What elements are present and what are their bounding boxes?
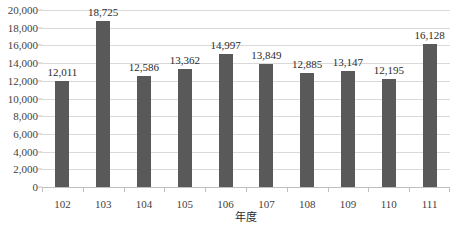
bar[interactable] xyxy=(55,81,69,187)
x-tick-label: 105 xyxy=(177,199,194,210)
bar-value-label: 14,997 xyxy=(210,40,240,51)
x-tick-mark xyxy=(83,187,84,192)
y-tick-label: 10,000 xyxy=(0,93,38,104)
x-tick-label: 108 xyxy=(299,199,316,210)
bar[interactable] xyxy=(137,76,151,187)
y-tick-label: 6,000 xyxy=(0,128,38,139)
x-tick-label: 102 xyxy=(54,199,71,210)
y-tick-label: 18,000 xyxy=(0,22,38,33)
y-tick-label: 20,000 xyxy=(0,5,38,16)
y-tick-label: 14,000 xyxy=(0,58,38,69)
bar[interactable] xyxy=(341,71,355,187)
bar-group[interactable]: 12,011 xyxy=(42,10,83,187)
x-tick-label: 104 xyxy=(136,199,153,210)
bar-group[interactable]: 13,849 xyxy=(246,10,287,187)
x-tick-mark xyxy=(164,187,165,192)
bar-group[interactable]: 12,586 xyxy=(124,10,165,187)
y-axis: 02,0004,0006,0008,00010,00012,00014,0001… xyxy=(0,0,38,197)
bar-group[interactable]: 12,885 xyxy=(287,10,328,187)
bar-chart: 02,0004,0006,0008,00010,00012,00014,0001… xyxy=(0,0,454,233)
y-tick-label: 4,000 xyxy=(0,146,38,157)
x-tick-mark xyxy=(42,187,43,192)
x-tick-mark xyxy=(409,187,410,192)
x-tick-label: 103 xyxy=(95,199,112,210)
x-tick-mark xyxy=(449,187,450,192)
x-tick-mark xyxy=(205,187,206,192)
y-tick-label: 8,000 xyxy=(0,111,38,122)
x-tick-label: 111 xyxy=(422,199,438,210)
x-tick-mark xyxy=(124,187,125,192)
bar-group[interactable]: 18,725 xyxy=(83,10,124,187)
x-axis-title: 年度 xyxy=(42,212,450,223)
bar[interactable] xyxy=(219,54,233,187)
x-tick-label: 106 xyxy=(217,199,234,210)
bar[interactable] xyxy=(423,44,437,187)
bar[interactable] xyxy=(382,79,396,187)
bar-group[interactable]: 13,147 xyxy=(328,10,369,187)
x-tick-mark xyxy=(246,187,247,192)
bar-value-label: 13,147 xyxy=(333,57,363,68)
x-tick-label: 107 xyxy=(258,199,275,210)
bar-value-label: 12,586 xyxy=(129,62,159,73)
bar[interactable] xyxy=(178,69,192,187)
x-tick-label: 110 xyxy=(381,199,397,210)
bar-group[interactable]: 13,362 xyxy=(164,10,205,187)
bar-value-label: 16,128 xyxy=(414,30,444,41)
x-tick-mark xyxy=(287,187,288,192)
bar-group[interactable]: 14,997 xyxy=(205,10,246,187)
bar-value-label: 18,725 xyxy=(88,7,118,18)
x-tick-label: 109 xyxy=(340,199,357,210)
x-tick-mark xyxy=(368,187,369,192)
bar-value-label: 12,195 xyxy=(374,65,404,76)
bar[interactable] xyxy=(259,64,273,187)
bar-group[interactable]: 12,195 xyxy=(368,10,409,187)
y-tick-label: 16,000 xyxy=(0,40,38,51)
y-tick-label: 0 xyxy=(0,182,38,193)
bar-value-label: 13,362 xyxy=(170,55,200,66)
plot-area: 12,01118,72512,58613,36214,99713,84912,8… xyxy=(42,10,450,187)
y-tick-label: 2,000 xyxy=(0,164,38,175)
bar[interactable] xyxy=(300,73,314,187)
bar-value-label: 12,011 xyxy=(47,67,77,78)
bar-group[interactable]: 16,128 xyxy=(409,10,450,187)
bar-value-label: 13,849 xyxy=(251,50,281,61)
bar[interactable] xyxy=(96,21,110,187)
bar-value-label: 12,885 xyxy=(292,59,322,70)
x-tick-mark xyxy=(328,187,329,192)
y-tick-label: 12,000 xyxy=(0,75,38,86)
